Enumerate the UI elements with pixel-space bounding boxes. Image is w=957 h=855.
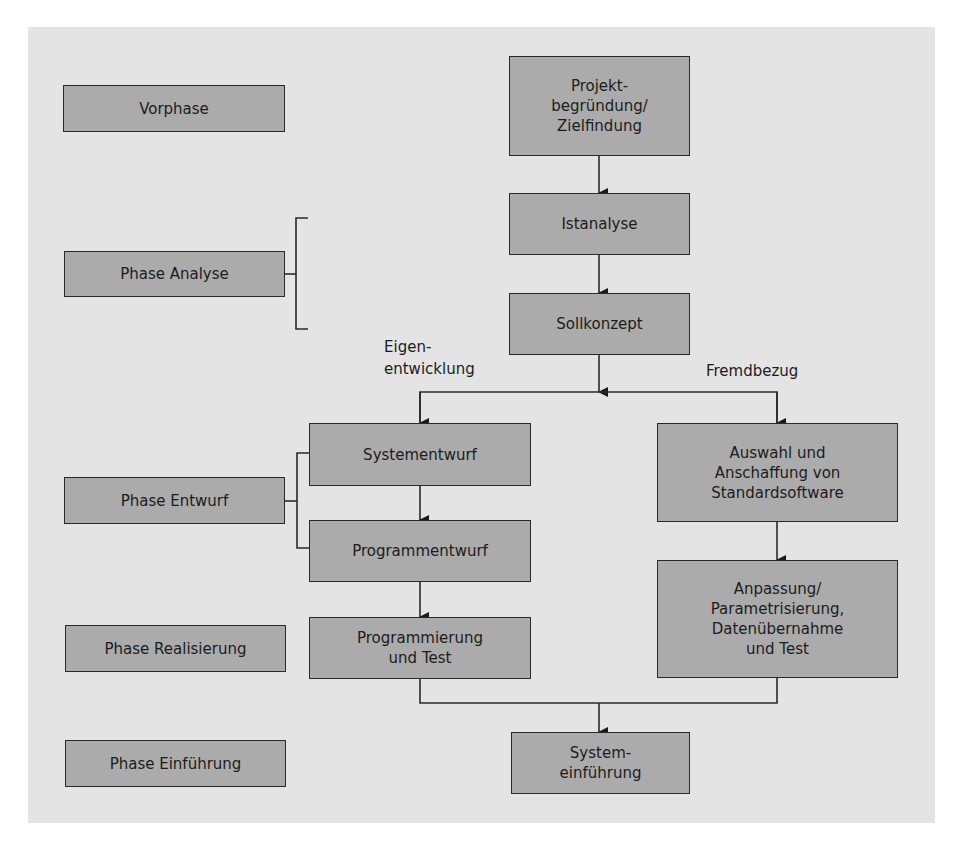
step-anpassung-label: Anpassung/ Parametrisierung, Datenüberna…: [711, 579, 845, 659]
step-programmierung-label: Programmierung und Test: [357, 628, 483, 668]
phase-analyse-label: Phase Analyse: [120, 264, 229, 284]
phase-entwurf-box: Phase Entwurf: [64, 477, 285, 524]
step-projektbegruendung: Projekt- begründung/ Zielfindung: [509, 56, 690, 156]
step-programmentwurf: Programmentwurf: [309, 520, 531, 582]
step-programmentwurf-label: Programmentwurf: [352, 541, 488, 561]
phase-einfuehrung-label: Phase Einführung: [110, 754, 242, 774]
phase-realisierung-label: Phase Realisierung: [105, 639, 247, 659]
branch-label-fremdbezug: Fremdbezug: [706, 360, 798, 382]
step-systemeinfuehrung-label: System- einführung: [560, 743, 642, 783]
step-istanalyse: Istanalyse: [509, 193, 690, 255]
step-projektbegruendung-label: Projekt- begründung/ Zielfindung: [551, 76, 648, 136]
step-auswahl-label: Auswahl und Anschaffung von Standardsoft…: [711, 443, 844, 503]
step-programmierung: Programmierung und Test: [309, 617, 531, 679]
bracket-analyse: [296, 218, 308, 329]
phase-vorphase-box: Vorphase: [63, 85, 285, 132]
branch-label-eigenentwicklung: Eigen- entwicklung: [384, 336, 475, 380]
step-auswahl: Auswahl und Anschaffung von Standardsoft…: [657, 423, 898, 522]
step-systementwurf: Systementwurf: [309, 423, 531, 486]
phase-entwurf-label: Phase Entwurf: [121, 491, 229, 511]
phase-einfuehrung-box: Phase Einführung: [65, 740, 286, 787]
phase-analyse-box: Phase Analyse: [64, 251, 285, 297]
branch-line: [420, 392, 777, 423]
step-sollkonzept: Sollkonzept: [509, 293, 690, 355]
step-systemeinfuehrung: System- einführung: [511, 732, 690, 794]
step-istanalyse-label: Istanalyse: [561, 214, 637, 234]
phase-vorphase-label: Vorphase: [139, 99, 209, 119]
step-anpassung: Anpassung/ Parametrisierung, Datenüberna…: [657, 560, 898, 678]
bracket-entwurf: [297, 453, 309, 548]
phase-realisierung-box: Phase Realisierung: [65, 625, 286, 672]
step-sollkonzept-label: Sollkonzept: [556, 314, 642, 334]
step-systementwurf-label: Systementwurf: [363, 445, 477, 465]
merge-line: [420, 678, 777, 703]
